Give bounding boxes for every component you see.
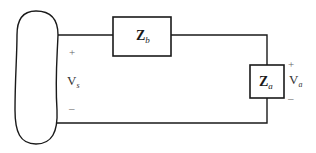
zb-subscript: b (145, 35, 150, 45)
za-label: Z (259, 74, 268, 89)
source-blob (15, 11, 58, 144)
svg-text:Va: Va (289, 72, 302, 89)
zb-label: Z (136, 28, 145, 43)
vs-subscript: s (76, 81, 79, 90)
impedance-za: Za (250, 65, 284, 98)
bottom-wire (57, 98, 267, 123)
va-subscript: a (298, 80, 302, 89)
vs-plus: + (69, 46, 75, 58)
vs-minus: – (68, 102, 75, 114)
va-minus: – (287, 92, 294, 104)
circuit-diagram: Zb Za + Vs – + Va – (0, 0, 316, 153)
va-plus: + (288, 58, 294, 70)
za-subscript: a (268, 81, 273, 91)
svg-text:Vs: Vs (67, 73, 80, 90)
impedance-zb: Zb (113, 17, 171, 56)
top-wire-right (171, 35, 267, 65)
